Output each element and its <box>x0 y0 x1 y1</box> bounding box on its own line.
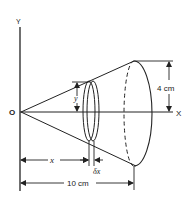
cone-top-edge <box>21 61 134 112</box>
cone-bottom-edge <box>21 112 136 166</box>
cone-diagram: Y X O 4 cm y x δx 10 cm <box>0 0 192 197</box>
disk-radius-label: y <box>73 94 78 103</box>
origin-label: O <box>9 108 15 117</box>
cone-base-back <box>124 61 134 166</box>
cone-base-front <box>134 61 152 166</box>
radius-label: 4 cm <box>157 84 175 93</box>
height-label: 10 cm <box>67 179 89 188</box>
x-axis-label: X <box>176 109 182 118</box>
y-axis-label: Y <box>16 18 21 25</box>
disk-position-label: x <box>49 155 54 165</box>
disk-thickness-label: δx <box>93 167 101 176</box>
